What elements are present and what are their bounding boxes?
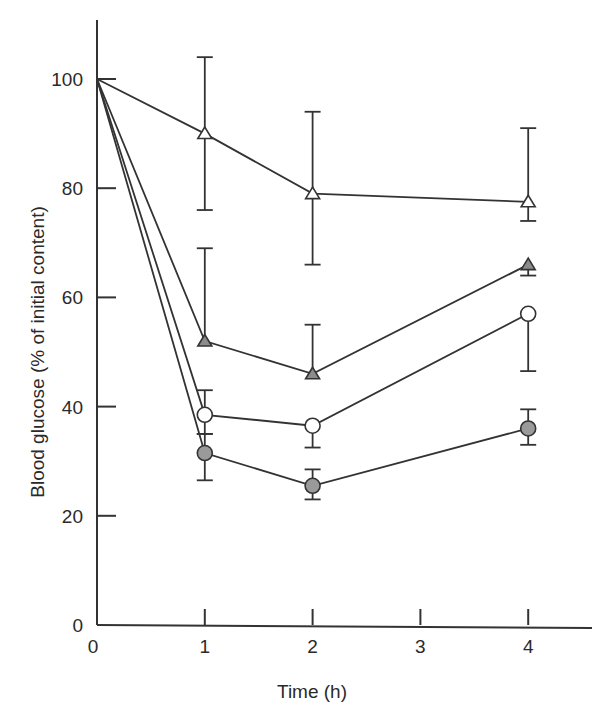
series-open-triangle bbox=[97, 57, 536, 264]
y-tick-label: 0 bbox=[72, 615, 83, 636]
y-axis-label: Blood glucose (% of initial content) bbox=[27, 206, 48, 498]
circle-marker-icon bbox=[197, 407, 212, 422]
circle-marker-icon bbox=[197, 446, 212, 461]
tick-labels: 02040608010001234 bbox=[51, 69, 534, 657]
y-tick-label: 100 bbox=[51, 69, 83, 90]
y-tick-label: 80 bbox=[62, 178, 83, 199]
circle-marker-icon bbox=[521, 306, 536, 321]
blood-glucose-chart: 02040608010001234 Time (h) Blood glucose… bbox=[0, 0, 611, 717]
series-filled-triangle bbox=[97, 79, 536, 379]
axes bbox=[97, 20, 592, 628]
y-tick-label: 40 bbox=[62, 397, 83, 418]
series-filled-circle bbox=[97, 79, 536, 499]
y-tick-label: 20 bbox=[62, 506, 83, 527]
circle-marker-icon bbox=[305, 418, 320, 433]
x-tick-label: 3 bbox=[415, 636, 426, 657]
x-tick-label: 1 bbox=[200, 636, 211, 657]
x-tick-label: 2 bbox=[307, 636, 318, 657]
circle-marker-icon bbox=[521, 421, 536, 436]
x-axis bbox=[97, 625, 592, 628]
y-tick-label: 60 bbox=[62, 287, 83, 308]
circle-marker-icon bbox=[305, 478, 320, 493]
triangle-marker-icon bbox=[306, 187, 320, 199]
data-series bbox=[97, 57, 536, 499]
triangle-marker-icon bbox=[198, 127, 212, 139]
triangle-marker-icon bbox=[198, 334, 212, 346]
x-axis-label: Time (h) bbox=[277, 681, 347, 702]
series-open-circle bbox=[97, 79, 536, 448]
x-tick-label: 0 bbox=[88, 636, 99, 657]
triangle-marker-icon bbox=[521, 258, 535, 270]
x-tick-label: 4 bbox=[523, 636, 534, 657]
